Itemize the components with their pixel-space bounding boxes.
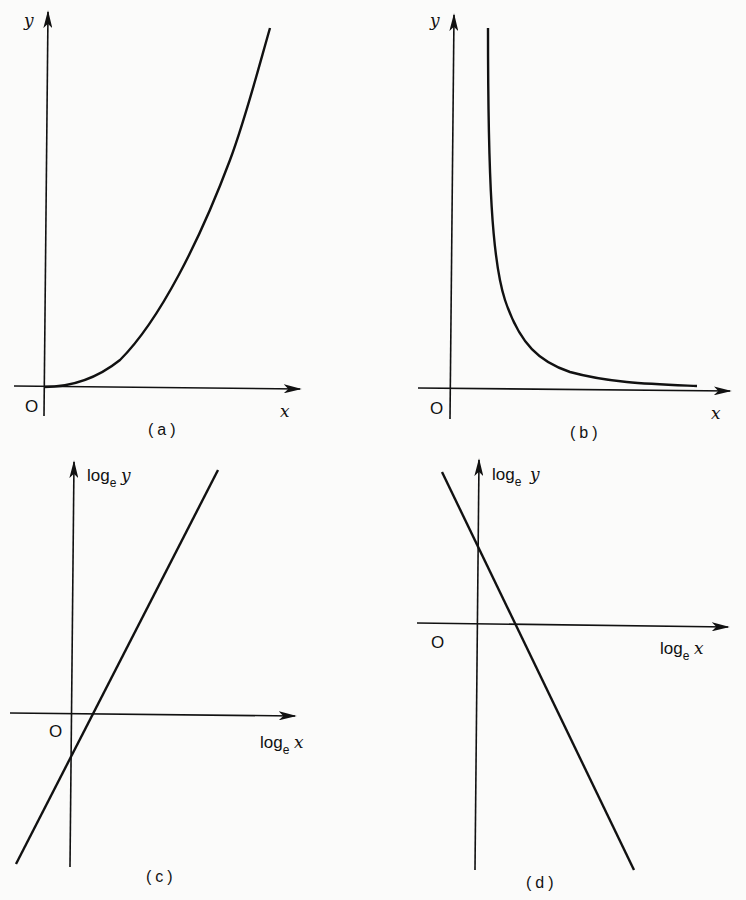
panel-a-power-curve	[44, 28, 270, 387]
panel-b-origin-label: O	[430, 400, 443, 417]
panel-d-y-log-base: e	[515, 475, 522, 489]
panel-c-y-log-base: e	[110, 476, 117, 490]
panel-b-x-axis	[418, 388, 730, 391]
panel-d-y-axis-label: loge y	[492, 466, 540, 483]
panel-b-x-axis-label: x	[711, 405, 721, 422]
panel-a-caption: (a)	[148, 421, 180, 439]
panel-c-x-axis	[10, 713, 295, 716]
panel-c-y-log: log	[87, 466, 110, 485]
panel-a-x-axis-label: x	[280, 403, 290, 420]
panel-c-caption: (c)	[146, 868, 177, 886]
panel-c-x-log: log	[260, 733, 283, 752]
panel-a-y-axis	[44, 12, 48, 416]
panel-d-origin-label: O	[431, 634, 444, 651]
panel-a-origin-label: O	[25, 398, 38, 415]
panel-d-y-axis	[475, 460, 479, 870]
panel-b-y-axis	[450, 15, 454, 419]
panel-b-caption: (b)	[570, 424, 602, 442]
panel-b-hyperbola-curve	[488, 28, 697, 386]
panel-c	[10, 462, 295, 867]
panel-c-linear-plot	[16, 470, 218, 864]
panel-d-x-axis	[417, 623, 728, 627]
panel-c-x-axis-label: loge x	[260, 734, 304, 751]
panel-a-y-axis-label: y	[24, 12, 34, 29]
panel-d-x-log: log	[660, 639, 683, 658]
panel-c-y-axis-label: loge y	[87, 467, 131, 484]
panel-d-y-log: log	[492, 465, 515, 484]
panel-d-caption: (d)	[526, 874, 558, 892]
panel-d-linear-plot	[442, 472, 634, 870]
panel-c-y-axis	[70, 462, 74, 867]
panel-c-origin-label: O	[49, 723, 62, 740]
panel-b	[418, 15, 730, 419]
panel-c-x-log-base: e	[283, 743, 290, 757]
panel-b-y-axis-label: y	[430, 12, 440, 29]
panel-d-y-var: y	[530, 464, 540, 484]
panel-c-x-var: x	[294, 732, 304, 752]
panel-d-x-log-base: e	[683, 649, 690, 663]
panel-a	[14, 12, 300, 416]
panel-c-y-var: y	[121, 465, 131, 485]
panel-d	[417, 460, 728, 870]
panel-d-x-var: x	[694, 638, 704, 658]
figure-canvas	[0, 0, 746, 900]
panel-d-x-axis-label: loge x	[660, 640, 704, 657]
